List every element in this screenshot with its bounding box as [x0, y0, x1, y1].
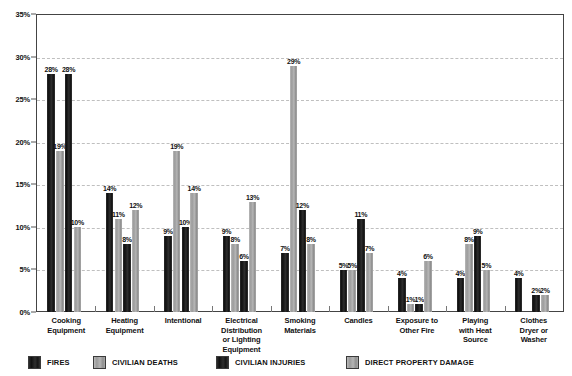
x-axis-label-line: Equipment [212, 345, 270, 355]
legend-item[interactable]: CIVILIAN DEATHS [93, 355, 178, 369]
legend-item[interactable]: FIRES [28, 355, 70, 369]
bar-value-label: 11% [112, 211, 125, 218]
bar[interactable]: 5% [348, 270, 356, 312]
bar[interactable]: 1% [407, 304, 415, 312]
bar[interactable]: 8% [465, 244, 473, 312]
y-axis-tick-label: 15% [16, 180, 30, 189]
bars-layer: 28%19%28%10%14%11%8%12%9%19%10%14%9%8%6%… [37, 15, 563, 312]
bar-value-label: 6% [423, 253, 433, 260]
bar-value-label: 13% [246, 194, 259, 201]
bar[interactable]: 8% [307, 244, 315, 312]
x-axis-category-label: Playingwith HeatSource [446, 316, 504, 345]
bar[interactable]: 7% [366, 253, 374, 312]
bar-fill [290, 66, 298, 312]
bar-fill [357, 219, 365, 312]
bar[interactable]: 28% [47, 74, 55, 312]
bar-group: 14%11%8%12% [95, 15, 153, 312]
bar[interactable]: 8% [123, 244, 131, 312]
x-axis-label-line: Other Fire [388, 326, 446, 336]
bar-fill [47, 74, 55, 312]
x-axis-label-line: Equipment [37, 326, 95, 336]
bar-fill [457, 278, 465, 312]
bar[interactable]: 9% [164, 236, 172, 312]
bar[interactable]: 11% [357, 219, 365, 312]
y-axis-tick-label: 30% [16, 52, 30, 61]
bar[interactable]: 6% [424, 261, 432, 312]
bar[interactable]: 9% [474, 236, 482, 312]
legend-item[interactable]: CIVILIAN INJURIES [216, 355, 305, 369]
bar-group: 9%19%10%14% [154, 15, 212, 312]
bar[interactable]: 2% [541, 295, 549, 312]
bar-group: 4%8%9%5% [446, 15, 504, 312]
bar-fill [465, 244, 473, 312]
bar[interactable]: 9% [223, 236, 231, 312]
bar[interactable]: 8% [231, 244, 239, 312]
legend-swatch [346, 356, 359, 369]
bar-value-label: 19% [170, 143, 183, 150]
legend-label: DIRECT PROPERTY DAMAGE [365, 358, 474, 367]
bar-chart: 0%5%10%15%20%25%30%35% 28%19%28%10%14%11… [0, 0, 572, 376]
x-axis-tick-mark [212, 306, 213, 312]
bar[interactable]: 29% [290, 66, 298, 312]
bar[interactable]: 10% [182, 227, 190, 312]
bar[interactable]: 19% [56, 151, 64, 312]
bar-value-label: 1% [414, 296, 424, 303]
bar[interactable]: 19% [173, 151, 181, 312]
x-axis-label-line: Smoking [271, 316, 329, 326]
legend-label: CIVILIAN INJURIES [235, 358, 305, 367]
bar[interactable]: 1% [415, 304, 423, 312]
bar-group: 7%29%12%8% [271, 15, 329, 312]
legend-label: CIVILIAN DEATHS [112, 358, 178, 367]
x-axis-label-line: Heating [95, 316, 153, 326]
bar-fill [231, 244, 239, 312]
x-axis-label-line: Playing [446, 316, 504, 326]
legend-item[interactable]: DIRECT PROPERTY DAMAGE [346, 355, 474, 369]
bar[interactable]: 10% [74, 227, 82, 312]
bar-fill [307, 244, 315, 312]
x-axis-label-line: Exposure to [388, 316, 446, 326]
bar[interactable]: 5% [340, 270, 348, 312]
bar-value-label: 12% [296, 202, 309, 209]
bar[interactable]: 13% [249, 202, 257, 312]
bar-fill [65, 74, 73, 312]
x-axis-label-line: or Lighting [212, 335, 270, 345]
bar-value-label: 7% [280, 245, 290, 252]
bar[interactable]: 2% [532, 295, 540, 312]
bar-fill [281, 253, 289, 312]
bar-fill [407, 304, 415, 312]
x-axis-category-label: HeatingEquipment [95, 316, 153, 335]
bar-value-label: 8% [230, 236, 240, 243]
bar[interactable]: 12% [299, 210, 307, 312]
bar-fill [173, 151, 181, 312]
bar[interactable]: 14% [190, 193, 198, 312]
bar-fill [515, 278, 523, 312]
x-axis-label-line: with Heat [446, 326, 504, 336]
chart-legend: FIRESCIVILIAN DEATHSCIVILIAN INJURIESDIR… [28, 355, 548, 371]
x-axis-label-line: Equipment [95, 326, 153, 336]
bar-fill [483, 270, 491, 312]
bar[interactable]: 11% [115, 219, 123, 312]
bar-value-label: 8% [306, 236, 316, 243]
x-axis-label-line: Distribution [212, 326, 270, 336]
bar[interactable]: 7% [281, 253, 289, 312]
y-axis-tick-label: 10% [16, 222, 30, 231]
bar-fill [182, 227, 190, 312]
x-axis-tick-mark [388, 306, 389, 312]
bar[interactable]: 4% [515, 278, 523, 312]
bar-value-label: 5% [482, 262, 492, 269]
bar[interactable]: 4% [457, 278, 465, 312]
bar-group: 5%5%11%7% [329, 15, 387, 312]
x-axis-category-label: ClothesDryer orWasher [505, 316, 563, 345]
bar[interactable]: 28% [65, 74, 73, 312]
bar-value-label: 4% [397, 270, 407, 277]
x-axis-category-label: Intentional [154, 316, 212, 326]
bar[interactable]: 4% [398, 278, 406, 312]
bar[interactable]: 6% [240, 261, 248, 312]
bar-fill [474, 236, 482, 312]
x-axis-tick-mark [271, 306, 272, 312]
bar[interactable]: 5% [483, 270, 491, 312]
bar[interactable]: 12% [132, 210, 140, 312]
bar-fill [56, 151, 64, 312]
bar-value-label: 11% [354, 211, 367, 218]
y-axis-tick-label: 35% [16, 10, 30, 19]
